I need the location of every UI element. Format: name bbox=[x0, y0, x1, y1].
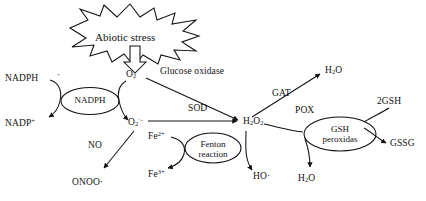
gsh-peroxidase-label: GSHperoxidas bbox=[310, 125, 370, 144]
species-nadph-label: NADPH bbox=[5, 74, 38, 84]
abiotic-stress-label: Abiotic stress bbox=[95, 31, 155, 43]
arrow-h2o2-to-hydroxyl bbox=[246, 131, 252, 170]
species-superoxide-label: O2·- bbox=[128, 117, 143, 128]
arrow-h2o2-to-gsh-peroxidase bbox=[264, 124, 303, 132]
fenton-reaction-label: Fentonreaction bbox=[189, 140, 237, 159]
species-h2o2-label: H2O2 bbox=[243, 117, 264, 127]
enzyme-sod-label: SOD bbox=[188, 104, 207, 114]
enzyme-gat-label: GAT bbox=[272, 89, 291, 99]
arrow-o2-to-superoxide bbox=[118, 81, 128, 120]
enzyme-pox-label: POX bbox=[295, 106, 314, 116]
species-peroxynitrite-label: ONOO· bbox=[72, 178, 103, 188]
species-fe3-label: Fe3+ bbox=[148, 169, 165, 180]
species-water-bottom-label: H2O bbox=[298, 174, 315, 184]
species-water-top-label: H2O bbox=[325, 66, 342, 76]
species-nadp-plus-label: NADP+ bbox=[5, 118, 35, 129]
nadph-complex-label: NADPH bbox=[70, 96, 110, 106]
nadph-radical-dot: · bbox=[57, 71, 60, 81]
arrow-nadph-to-nadp bbox=[49, 80, 61, 117]
enzyme-glucose-oxidase-label: Glucose oxidase bbox=[160, 67, 224, 77]
arrow-no-to-onoo bbox=[104, 131, 134, 168]
species-o2-label: O2 bbox=[126, 70, 136, 80]
ros-pathway-diagram: Abiotic stress NADPH · NADP+ NADPH O2 O2… bbox=[0, 0, 426, 201]
species-fe2-label: Fe2+ bbox=[148, 131, 165, 142]
species-hydroxyl-label: HO· bbox=[253, 172, 270, 182]
arrow-fe2-to-fe3 bbox=[168, 137, 184, 168]
diagram-vector-layer bbox=[0, 0, 426, 201]
arrow-gsh-in bbox=[364, 108, 389, 122]
species-gsh-label: 2GSH bbox=[377, 97, 401, 107]
enzyme-no-label: NO bbox=[88, 141, 102, 151]
species-gssg-label: GSSG bbox=[390, 139, 415, 149]
